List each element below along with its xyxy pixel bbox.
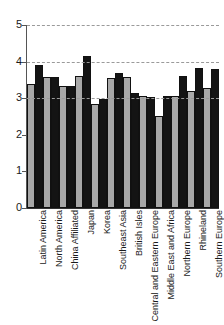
y-tick-label-text: 2 <box>2 129 22 140</box>
x-axis-label: Rhineland <box>199 210 208 251</box>
bar <box>203 88 211 208</box>
x-axis-label-text: North America <box>55 210 64 267</box>
x-axis-label-text: British Isles <box>135 210 144 256</box>
x-axis-label-text: Japan <box>87 210 96 235</box>
bar <box>171 96 179 208</box>
bar <box>195 68 203 208</box>
plot-area <box>27 25 219 208</box>
y-tick-label: 3 <box>0 92 22 103</box>
y-tick-mark-0 <box>22 208 27 209</box>
x-axis-label: Korea <box>103 210 112 234</box>
bar <box>163 96 171 208</box>
y-tick-label: 0 <box>0 202 22 213</box>
bar <box>67 86 75 208</box>
bars-layer <box>27 25 219 208</box>
gridline-4 <box>27 62 219 63</box>
x-axis-label: Central and Eastern Europe <box>151 210 160 322</box>
y-tick-label-text: 4 <box>2 56 22 67</box>
x-axis-label: Japan <box>87 210 96 235</box>
bar <box>187 91 195 208</box>
x-axis-label-text: Central and Eastern Europe <box>151 210 160 322</box>
y-tick-mark-5 <box>22 25 27 26</box>
bar <box>35 65 43 208</box>
x-axis-label-text: Latin America <box>39 210 48 265</box>
y-tick-label-text: 5 <box>2 19 22 30</box>
y-tick-label-text: 3 <box>2 92 22 103</box>
x-axis-label: Southern Europe <box>215 210 224 278</box>
bar <box>51 77 59 208</box>
bar <box>83 56 91 208</box>
gridline-3 <box>27 98 219 99</box>
bar <box>75 76 83 208</box>
bar <box>99 99 107 208</box>
y-tick-label: 4 <box>0 56 22 67</box>
x-axis-label: China Affiliated <box>71 210 80 270</box>
x-axis-label: Latin America <box>39 210 48 265</box>
y-tick-mark-1 <box>22 171 27 172</box>
y-tick-mark-2 <box>22 135 27 136</box>
x-axis-label: Northern Europe <box>183 210 192 277</box>
bar <box>115 73 123 208</box>
x-axis-baseline <box>26 208 219 209</box>
bar <box>43 77 51 208</box>
x-axis-label-text: Korea <box>103 210 112 234</box>
x-axis-label: Southeast Asia <box>119 210 128 270</box>
bar-chart-figure: 012345 Latin AmericaNorth AmericaChina A… <box>0 0 224 325</box>
x-axis-label-text: Middle East and Africa <box>167 210 176 300</box>
x-axis-category-labels: Latin AmericaNorth AmericaChina Affiliat… <box>27 210 219 322</box>
x-axis-label-text: China Affiliated <box>71 210 80 270</box>
x-axis-label: Middle East and Africa <box>167 210 176 300</box>
bar <box>139 96 147 208</box>
x-axis-label: British Isles <box>135 210 144 256</box>
y-tick-label: 1 <box>0 165 22 176</box>
y-tick-label-text: 1 <box>2 165 22 176</box>
bar <box>155 116 163 208</box>
x-axis-label-text: Northern Europe <box>183 210 192 277</box>
y-tick-mark-3 <box>22 98 27 99</box>
gridline-5 <box>27 25 219 26</box>
bar <box>59 86 67 208</box>
x-axis-label-text: Southern Europe <box>215 210 224 278</box>
bar <box>179 76 187 208</box>
y-tick-label: 5 <box>0 19 22 30</box>
bar <box>131 93 139 208</box>
y-tick-label-text: 0 <box>2 202 22 213</box>
x-axis-label-text: Rhineland <box>199 210 208 251</box>
bar <box>91 104 99 208</box>
bar <box>27 84 35 208</box>
bar <box>123 77 131 208</box>
y-tick-mark-4 <box>22 62 27 63</box>
bar <box>147 97 155 208</box>
y-tick-label: 2 <box>0 129 22 140</box>
x-axis-label: North America <box>55 210 64 267</box>
x-axis-label-text: Southeast Asia <box>119 210 128 270</box>
bar <box>211 69 219 208</box>
